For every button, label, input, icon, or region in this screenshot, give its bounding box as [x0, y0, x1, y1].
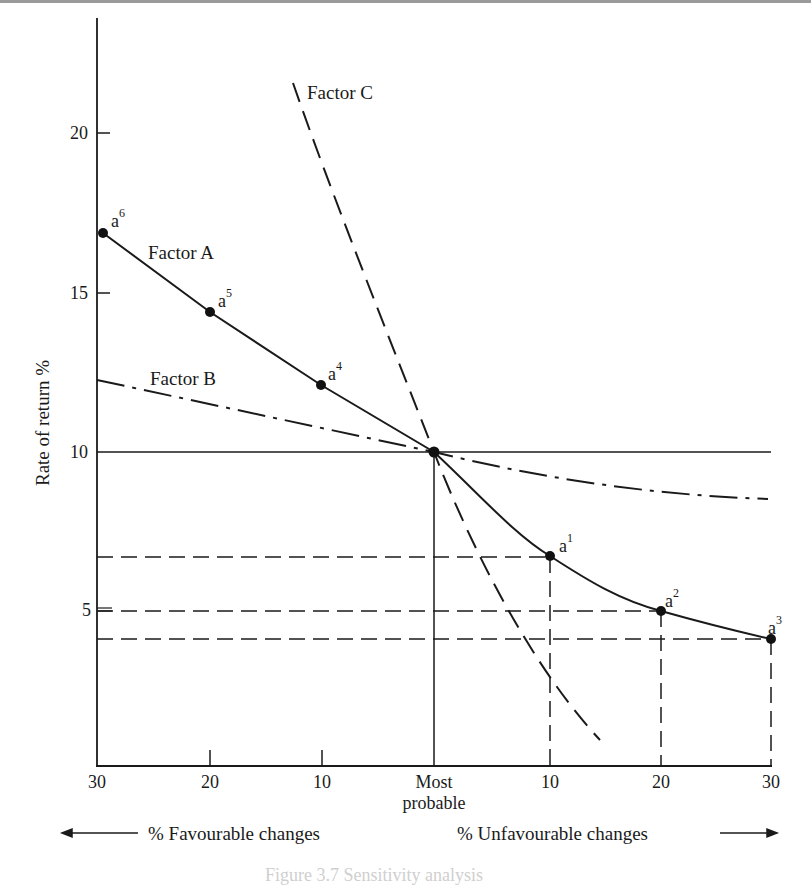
point-label-a4: a4	[328, 365, 342, 383]
y-tick-label-5: 5	[51, 601, 91, 619]
point-a1	[545, 551, 555, 561]
x-tick-label-10-unfav: 10	[510, 772, 590, 793]
factor-c-label: Factor C	[307, 83, 373, 102]
factor-c-line	[293, 83, 600, 740]
y-tick-label-10: 10	[48, 443, 88, 461]
left-arrow-icon	[62, 829, 72, 837]
point-a5	[205, 307, 215, 317]
point-a4	[316, 380, 326, 390]
favourable-changes-label: % Favourable changes	[148, 824, 320, 843]
point-a6	[98, 228, 108, 238]
point-label-a5: a5	[218, 292, 232, 310]
y-tick-label-20: 20	[48, 124, 88, 142]
x-tick-label-20-unfav: 20	[621, 772, 701, 793]
factor-a-line	[103, 233, 771, 639]
unfavourable-changes-label: % Unfavourable changes	[457, 824, 648, 843]
y-axis-label: Rate of return %	[32, 343, 54, 503]
right-arrow-icon	[767, 829, 777, 837]
x-tick-label-20-fav: 20	[170, 772, 250, 793]
y-tick-label-15: 15	[48, 284, 88, 302]
point-label-a6: a6	[111, 212, 125, 230]
point-most-probable	[429, 447, 440, 458]
factor-b-line	[97, 380, 768, 499]
factor-a-label: Factor A	[148, 243, 214, 262]
point-label-a1: a1	[559, 537, 573, 555]
x-tick-label-30-unfav: 30	[731, 772, 811, 793]
x-tick-label-30-fav: 30	[57, 772, 137, 793]
x-tick-label-most-probable: Most probable	[394, 772, 474, 813]
figure-caption: Figure 3.7 Sensitivity analysis	[265, 866, 483, 884]
point-label-a2: a2	[665, 592, 679, 610]
x-tick-label-10-fav: 10	[282, 772, 362, 793]
factor-b-label: Factor B	[150, 369, 216, 388]
point-label-a3: a3	[768, 619, 782, 637]
factor-a-points	[98, 228, 776, 644]
